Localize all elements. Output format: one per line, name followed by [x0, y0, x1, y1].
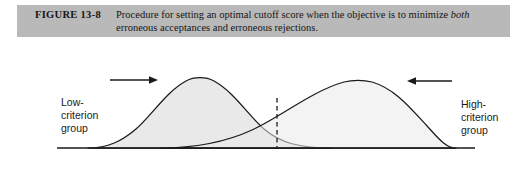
high-criterion-label-line-3: group: [461, 124, 498, 137]
caption-segment-1: Procedure for setting an optimal cutoff …: [116, 9, 451, 20]
figure-root: FIGURE 13-8 Procedure for setting an opt…: [0, 0, 524, 170]
high-criterion-label-line-2: criterion: [461, 111, 498, 124]
caption-segment-2: erroneous acceptances and erroneous reje…: [116, 22, 318, 33]
high-criterion-group-label: High- criterion group: [461, 98, 498, 137]
caption-segment-italic: both: [451, 9, 470, 20]
figure-number-label: FIGURE 13-8: [35, 9, 101, 20]
low-criterion-label-line-2: criterion: [61, 109, 98, 122]
figure-caption-inner: FIGURE 13-8 Procedure for setting an opt…: [35, 9, 502, 22]
high-criterion-label-line-1: High-: [461, 98, 498, 111]
figure-caption-text: Procedure for setting an optimal cutoff …: [116, 9, 502, 34]
figure-caption-band: FIGURE 13-8 Procedure for setting an opt…: [17, 5, 510, 37]
low-criterion-label-line-1: Low-: [61, 96, 98, 109]
chart-plot-area: Low- criterion group High- criterion gro…: [0, 37, 524, 170]
low-criterion-group-label: Low- criterion group: [61, 96, 98, 135]
low-criterion-arrow: [110, 76, 158, 84]
high-criterion-arrow: [407, 77, 452, 85]
low-criterion-label-line-3: group: [61, 122, 98, 135]
